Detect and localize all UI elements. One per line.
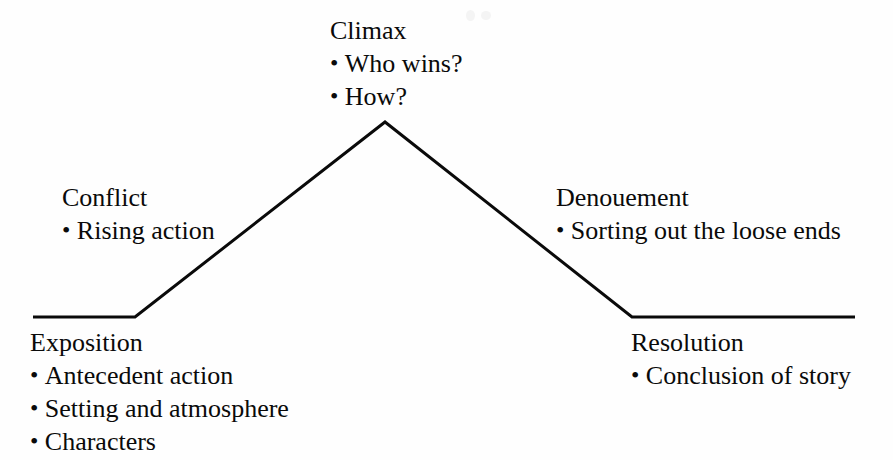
stage-bullets-denouement: Sorting out the loose ends: [556, 214, 841, 247]
list-item: Antecedent action: [30, 359, 289, 392]
stage-bullets-resolution: Conclusion of story: [631, 359, 851, 392]
stage-block-denouement: Denouement Sorting out the loose ends: [556, 181, 841, 247]
stage-title-denouement: Denouement: [556, 181, 841, 214]
stage-title-climax: Climax: [330, 14, 463, 47]
stage-block-conflict: Conflict Rising action: [62, 181, 215, 247]
list-item: Characters: [30, 425, 289, 458]
stage-block-resolution: Resolution Conclusion of story: [631, 326, 851, 392]
stage-title-resolution: Resolution: [631, 326, 851, 359]
stage-block-climax: Climax Who wins? How?: [330, 14, 463, 113]
list-item: Sorting out the loose ends: [556, 214, 841, 247]
stage-bullets-conflict: Rising action: [62, 214, 215, 247]
scan-artifact-speck: [481, 11, 491, 20]
plot-structure-diagram: Climax Who wins? How? Conflict Rising ac…: [0, 0, 893, 460]
list-item: Setting and atmosphere: [30, 392, 289, 425]
list-item: Conclusion of story: [631, 359, 851, 392]
stage-title-conflict: Conflict: [62, 181, 215, 214]
scan-artifact-speck: [466, 10, 475, 21]
stage-bullets-climax: Who wins? How?: [330, 47, 463, 113]
list-item: Rising action: [62, 214, 215, 247]
stage-bullets-exposition: Antecedent action Setting and atmosphere…: [30, 359, 289, 458]
list-item: Who wins?: [330, 47, 463, 80]
list-item: How?: [330, 80, 463, 113]
stage-block-exposition: Exposition Antecedent action Setting and…: [30, 326, 289, 458]
stage-title-exposition: Exposition: [30, 326, 289, 359]
